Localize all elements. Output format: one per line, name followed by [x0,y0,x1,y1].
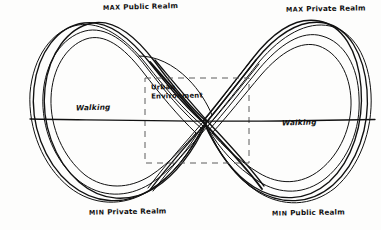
label-max-private-keyword: MAX [286,5,304,12]
label-min-public-text: Public Realm [290,207,345,217]
label-max-public-text: Public Realm [123,1,178,11]
label-min-private-keyword: MIN [89,208,105,215]
label-min-private-text: Private Realm [107,206,167,216]
label-min-public-realm: MIN Public Realm [272,208,345,217]
diagram-canvas: MAX Public Realm MAX Private Realm MIN P… [0,0,381,230]
label-max-private-text: Private Realm [306,3,366,13]
label-walking-right: Walking [282,118,317,128]
label-max-public-keyword: MAX [103,3,121,10]
label-min-private-realm: MIN Private Realm [89,207,167,217]
label-urban-line2: Environment [151,91,203,101]
label-urban-environment: Urban Environment [151,82,203,101]
label-walking-left: Walking [76,104,111,113]
label-min-public-keyword: MIN [272,209,287,216]
left-loop-strokes [30,22,207,202]
infinity-loop-sketch [0,0,381,230]
label-max-private-realm: MAX Private Realm [286,4,366,14]
right-loop-strokes [203,20,371,202]
